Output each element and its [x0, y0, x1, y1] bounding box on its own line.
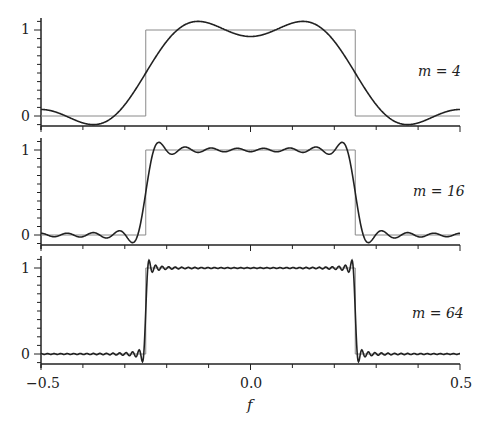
ideal-rect-line — [41, 268, 460, 354]
p3-ytick-0: 0 — [21, 346, 30, 362]
panel2-annotation: m = 16 — [413, 183, 465, 199]
p3-ytick-1: 1 — [21, 260, 30, 276]
figure: m = 4 m = 16 m = 64 1 0 1 0 1 0 −0.5 0.0… — [0, 0, 486, 427]
approximation-curve — [41, 142, 460, 242]
panel1-annotation: m = 4 — [418, 63, 461, 79]
approximation-curve — [41, 260, 460, 361]
ideal-rect-line — [41, 30, 460, 116]
p2-ytick-1: 1 — [21, 142, 30, 158]
ideal-rect-line — [41, 150, 460, 235]
panel3-annotation: m = 64 — [412, 305, 464, 321]
xtick-label-right: 0.5 — [450, 375, 472, 391]
p1-ytick-0: 0 — [21, 108, 30, 124]
xtick-label-mid: 0.0 — [240, 375, 262, 391]
xtick-label-left: −0.5 — [26, 375, 60, 391]
p2-ytick-0: 0 — [21, 227, 30, 243]
x-axis-label: f — [246, 396, 255, 414]
approximation-curve — [41, 21, 460, 124]
p1-ytick-1: 1 — [21, 21, 30, 37]
